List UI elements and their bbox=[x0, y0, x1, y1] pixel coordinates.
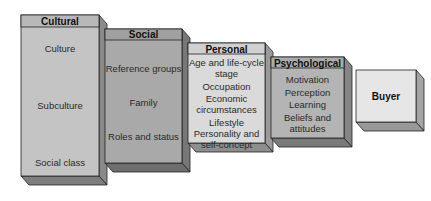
personal-item: Lifestyle bbox=[188, 117, 265, 128]
cultural-title: Cultural bbox=[21, 16, 99, 27]
buyer-title: Buyer bbox=[356, 91, 416, 102]
psychological-item: Motivation bbox=[271, 74, 344, 85]
psychological-item: Perception bbox=[271, 87, 344, 98]
psychological-title: Psychological bbox=[271, 58, 344, 69]
cultural-item: Subculture bbox=[21, 100, 99, 111]
social-item: Reference groups bbox=[105, 63, 182, 74]
psychological-item: Learning bbox=[271, 99, 344, 110]
social-item: Roles and status bbox=[105, 131, 182, 142]
personal-item: Occupation bbox=[188, 81, 265, 92]
social-item: Family bbox=[105, 97, 182, 108]
personal-item: Economic circumstances bbox=[188, 93, 265, 115]
cultural-item: Social class bbox=[21, 157, 99, 168]
cultural-item: Culture bbox=[21, 43, 99, 54]
social-title: Social bbox=[105, 29, 182, 40]
personal-title: Personal bbox=[188, 44, 265, 55]
personal-item: Age and life-cycle stage bbox=[188, 57, 265, 79]
personal-item: Personality and self-concept bbox=[188, 128, 265, 150]
psychological-item: Beliefs and attitudes bbox=[271, 112, 344, 134]
